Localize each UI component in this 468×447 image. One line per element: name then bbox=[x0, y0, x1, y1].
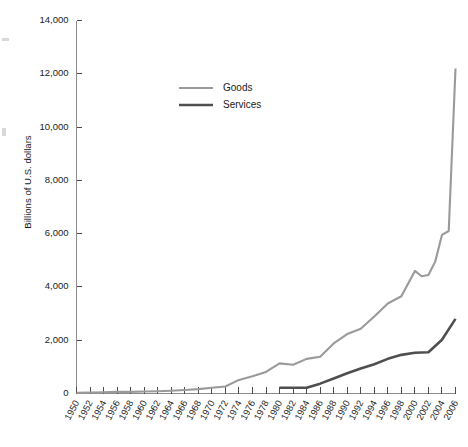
y-tick-label: 2,000 bbox=[45, 334, 69, 345]
line-chart: 02,0004,0006,0008,00010,00012,00014,000 … bbox=[0, 0, 468, 447]
chart-container: 02,0004,0006,0008,00010,00012,00014,000 … bbox=[0, 0, 468, 447]
scan-artifact-mid bbox=[2, 128, 6, 136]
series-line-services bbox=[280, 319, 456, 388]
y-tick-label: 8,000 bbox=[45, 174, 69, 185]
y-tick-label: 6,000 bbox=[45, 227, 69, 238]
data-series-group bbox=[77, 68, 456, 392]
y-tick-label: 4,000 bbox=[45, 280, 69, 291]
legend-label-services: Services bbox=[223, 99, 261, 110]
y-axis: 02,0004,0006,0008,00010,00012,00014,000 bbox=[39, 14, 81, 398]
y-tick-label: 14,000 bbox=[39, 14, 68, 25]
legend-label-goods: Goods bbox=[223, 82, 252, 93]
series-line-goods bbox=[77, 68, 456, 392]
y-tick-label: 0 bbox=[63, 387, 68, 398]
y-axis-title: Billions of U.S. dollars bbox=[22, 135, 33, 229]
chart-legend: GoodsServices bbox=[179, 82, 261, 110]
x-tick-label: 2006 bbox=[442, 399, 461, 422]
y-tick-label: 10,000 bbox=[39, 121, 68, 132]
y-tick-label: 12,000 bbox=[39, 67, 68, 78]
scan-artifact-top bbox=[2, 38, 9, 41]
